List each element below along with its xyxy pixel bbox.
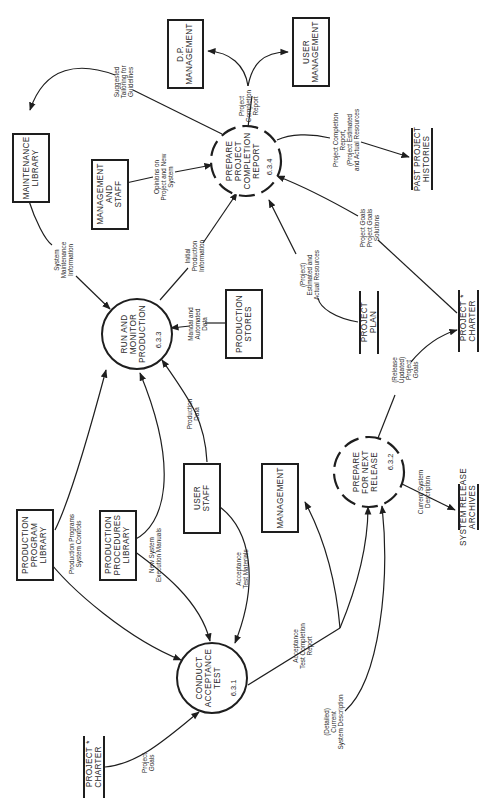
entity-label: LIBRARY [39,526,48,563]
flow-label-acceptance-materials: Acceptance Test Materials [235,549,249,588]
store-label: PROJECT [360,302,369,342]
entity-label: PRODUCTION [104,516,113,574]
flow-label: System Description [337,694,345,749]
entity-dp-management[interactable]: D.P. MANAGEMENT [168,20,203,88]
store-past-project-histories[interactable]: PAST PROJECT HISTORIES [412,127,432,192]
flow-label: Report [306,636,314,655]
flow-label: Automated [194,308,201,339]
process-label: RELEASE [370,452,379,492]
flow-633-to-634 [160,268,188,300]
entity-label: LIBRARY [31,149,40,186]
flow-label-project-completion: Project Completion Report [238,89,260,122]
process-label: TEST [213,667,222,689]
flow-label-suggested-tailoring: Suggested Tailoring for Guidelines [113,65,134,99]
entity-user-management[interactable]: USER MANAGEMENT [293,18,329,86]
flow-maint-to-633a [29,201,52,245]
entity-label: MAINTENANCE [22,136,31,199]
flow-label-production-programs: Production Programs System Controls [68,514,83,574]
flow-maint-to-633b [76,276,110,309]
flow-tailoring-to-maint [30,68,115,110]
flow-junction-to-management [305,502,340,628]
process-label: ACCEPTANCE [204,649,213,708]
entity-production-stores[interactable]: PRODUCTION STORES [226,290,262,358]
flow-opinions-to-634 [175,165,212,172]
entity-production-program-library[interactable]: PRODUCTION PROGRAM LIBRARY [17,510,53,580]
flow-label-production-data: Production Data [186,398,200,429]
flow-634-to-histories-b [361,142,409,157]
store-label: CHARTER [94,746,103,788]
flow-programs-to-633 [55,370,106,530]
process-6-3-3[interactable]: RUN AND MONITOR PRODUCTION 6.3.3 [102,299,172,369]
store-label: PLAN [369,311,378,334]
store-label: SYSTEM RELEASE [459,468,468,546]
flow-label: Guidelines [127,67,134,97]
flow-mgmtstaff-to-opinions [126,177,153,183]
entity-production-procedures-library[interactable]: PRODUCTION PROCEDURES LIBRARY [100,511,136,580]
process-label: PRODUCTION [138,305,147,363]
process-label: REPORT [252,143,261,179]
flow-release-to-charterB [411,330,457,362]
entity-user-staff[interactable]: USER STAFF [184,464,220,533]
flow-label-current-system: Current System Description [417,470,432,514]
process-label: PREPARE [352,451,361,492]
process-label: PROJECT [234,141,243,181]
process-label: FOR NEXT [361,450,370,494]
data-flow-diagram: CONDUCT ACCEPTANCE TEST 6.3.1 PREPARE FO… [0,0,496,806]
flow-label: Manual and [187,307,194,341]
entity-label: MANAGEMENT [185,23,194,85]
flow-label-new-system-exec: New System Execution Manuals [148,528,162,582]
store-asterisk: * [85,740,94,744]
entity-label: PROGRAM [30,523,39,567]
process-6-3-4[interactable]: PREPARE PROJECT COMPLETION REPORT 6.3.4 [211,126,281,196]
store-label: CHARTER [468,300,477,342]
flow-634-to-histories-a [277,135,330,140]
flow-label: Maintenance [60,241,67,278]
flow-label: Execution Manuals [155,528,162,582]
flow-634-to-tailoring [133,90,222,134]
flow-label: Solutions [373,215,380,241]
process-label: CONDUCT [195,656,204,699]
entity-management-and-staff[interactable]: MANAGEMENT AND STAFF [92,160,128,229]
store-project-plan[interactable]: PROJECT PLAN [360,291,378,354]
flow-procedures-to-631 [134,551,210,641]
entity-label: STAFF [114,181,123,208]
flow-label-detailed-current: (Detailed) Current System Description [323,694,345,749]
entity-management[interactable]: MANAGEMENT [262,464,298,532]
process-number: 6.3.2 [386,454,395,471]
entity-maintenance-library[interactable]: MAINTENANCE LIBRARY [13,134,49,202]
flow-charterB-to-goals [378,240,457,313]
store-project-charter-a[interactable]: PROJECT CHARTER * [84,736,104,798]
flow-label: and Actual Resources [353,109,360,171]
process-6-3-2[interactable]: PREPARE FOR NEXT RELEASE 6.3.2 [334,437,404,507]
entity-label: MANAGEMENT [96,163,105,225]
flow-goals-to-634 [277,176,358,216]
entity-label: AND [105,185,114,203]
store-system-release-archives[interactable]: SYSTEM RELEASE ARCHIVES [459,468,478,546]
process-6-3-1[interactable]: CONDUCT ACCEPTANCE TEST 6.3.1 [177,643,247,713]
process-number: 6.3.1 [229,680,238,697]
flow-label: Information [198,240,205,272]
flow-label: Current [330,711,337,733]
process-label: MONITOR [129,314,138,355]
store-project-charter-b[interactable]: PROJECT CHARTER * [459,290,478,352]
flow-label: Initial [184,249,191,264]
flow-label: Production [186,398,193,429]
entity-label: STORES [244,306,253,342]
entity-label: PRODUCTION [21,516,30,574]
flow-label: Goals [148,755,155,772]
entity-label: USER [302,40,311,64]
store-label: PROJECT [459,301,468,341]
flow-label: Data [193,407,200,421]
flow-completion-to-dp [208,51,248,86]
flow-label-opinions: Opinions on Project and New System [153,153,175,200]
flow-label-acceptance-report: Acceptance Test Completion Report [292,623,314,669]
entity-label: PROCEDURES [113,514,122,575]
process-number: 6.3.4 [265,159,274,176]
flow-plan-to-estimated [318,298,358,322]
flow-label-manual-automated: Manual and Automated Data [187,307,208,341]
flow-completion-to-user [248,52,288,86]
flow-estimated-to-634 [269,200,296,254]
flow-label: System Controls [75,521,83,568]
flow-procedures-to-633 [134,373,164,540]
store-label: HISTORIES [422,135,431,182]
